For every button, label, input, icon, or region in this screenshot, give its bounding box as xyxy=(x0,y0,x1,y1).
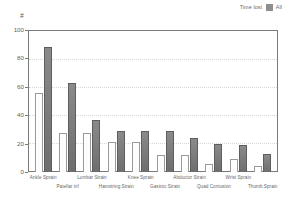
x-axis-label: Lumbar Strain xyxy=(77,176,107,181)
bar-time-lost xyxy=(230,159,238,172)
bar-all xyxy=(44,47,52,172)
bar-time-lost xyxy=(83,133,91,172)
bar-group xyxy=(35,31,52,172)
y-axis-unit-label: # xyxy=(20,12,24,19)
bar-all xyxy=(214,144,222,172)
legend-entry-all: All xyxy=(266,4,282,11)
x-axis-label: Patellar inf xyxy=(56,185,78,190)
bar-time-lost xyxy=(254,166,262,172)
x-axis-label: Wrist Sprain xyxy=(226,176,252,181)
legend-entry-time-lost: Time lost xyxy=(240,5,263,10)
legend-label-all: All xyxy=(276,5,282,10)
chart-legend: Time lost All xyxy=(240,4,282,11)
bar-all xyxy=(190,138,198,172)
x-axis-label: Gastroc Strain xyxy=(150,185,180,190)
bar-time-lost xyxy=(108,142,116,172)
bar-group xyxy=(254,31,271,172)
bar-group xyxy=(230,31,247,172)
bar-group xyxy=(132,31,149,172)
bar-group xyxy=(205,31,222,172)
x-axis-label: Thumb Sprain xyxy=(248,185,277,190)
x-axis-labels: Ankle SprainPatellar infLumbar StrainHam… xyxy=(29,173,277,202)
bar-group xyxy=(59,31,76,172)
bar-group xyxy=(157,31,174,172)
bar-series-container xyxy=(29,31,277,172)
y-tick-mark-0 xyxy=(25,172,28,173)
bar-all xyxy=(117,131,125,172)
bar-all xyxy=(92,120,100,172)
legend-label-time-lost: Time lost xyxy=(240,5,263,10)
bar-group xyxy=(83,31,100,172)
bar-time-lost xyxy=(132,142,140,172)
bar-chart: Time lost All # 100 80 60 40 20 0 Ankl xyxy=(0,0,290,202)
x-axis-label: Quad Contusion xyxy=(197,185,231,190)
bar-time-lost xyxy=(35,93,43,172)
bar-group xyxy=(181,31,198,172)
bar-time-lost xyxy=(157,155,165,172)
bar-time-lost xyxy=(59,133,67,172)
x-axis-label: Abductor Strain xyxy=(173,176,205,181)
bar-time-lost xyxy=(181,155,189,172)
x-axis-label: Knee Sprain xyxy=(128,176,154,181)
y-tick-label-40: 40 xyxy=(17,112,24,118)
y-tick-label-100: 100 xyxy=(14,27,24,33)
bar-group xyxy=(108,31,125,172)
legend-swatch-all-icon xyxy=(266,4,273,11)
bar-time-lost xyxy=(205,164,213,172)
x-axis-label: Ankle Sprain xyxy=(30,176,57,181)
bar-all xyxy=(166,131,174,172)
x-axis-label: Hamstring Strain xyxy=(99,185,134,190)
y-tick-label-0: 0 xyxy=(21,169,24,175)
y-tick-label-20: 20 xyxy=(17,140,24,146)
y-axis: 100 80 60 40 20 0 xyxy=(0,30,28,172)
bar-all xyxy=(141,131,149,172)
y-tick-label-80: 80 xyxy=(17,55,24,61)
bar-all xyxy=(239,145,247,172)
bar-all xyxy=(68,83,76,172)
y-tick-label-60: 60 xyxy=(17,84,24,90)
bar-all xyxy=(263,154,271,172)
